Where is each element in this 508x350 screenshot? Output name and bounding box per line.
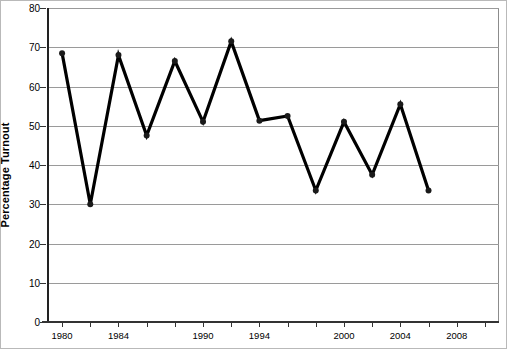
y-axis-line: [47, 8, 49, 323]
data-point-marker: [144, 133, 150, 139]
data-point-marker: [426, 188, 432, 194]
x-tick-label: 2008: [446, 330, 467, 341]
y-tick-mark: [40, 204, 46, 205]
data-point-marker: [59, 50, 65, 56]
plot-area: [48, 8, 499, 322]
y-tick-mark: [40, 126, 46, 127]
y-tick-label: 80: [29, 3, 40, 14]
x-tick-label: 1990: [192, 330, 213, 341]
x-tick-label: 1994: [249, 330, 270, 341]
data-point-marker: [200, 119, 206, 125]
y-tick-mark: [40, 87, 46, 88]
data-point-marker: [313, 188, 319, 194]
series-polyline: [62, 41, 428, 204]
y-tick-mark: [40, 8, 46, 9]
data-point-marker: [87, 201, 93, 207]
x-tick-label: 1980: [52, 330, 73, 341]
y-tick-label: 10: [29, 277, 40, 288]
y-tick-label: 70: [29, 42, 40, 53]
data-point-marker: [285, 113, 291, 119]
data-series-line: [48, 8, 499, 322]
x-tick-label: 2004: [390, 330, 411, 341]
y-tick-label: 40: [29, 160, 40, 171]
y-tick-label: 60: [29, 81, 40, 92]
y-tick-mark: [40, 283, 46, 284]
data-point-marker: [397, 101, 403, 107]
y-tick-mark: [40, 47, 46, 48]
data-point-marker: [369, 172, 375, 178]
x-tick-label: 1984: [108, 330, 129, 341]
data-point-marker: [172, 58, 178, 64]
y-tick-label: 30: [29, 199, 40, 210]
y-tick-mark: [40, 244, 46, 245]
y-tick-mark: [40, 165, 46, 166]
data-point-marker: [341, 119, 347, 125]
data-point-marker: [115, 52, 121, 58]
y-tick-label: 20: [29, 238, 40, 249]
chart-figure: Percentage Turnout 01020304050607080 198…: [0, 0, 508, 350]
data-point-marker: [228, 38, 234, 44]
data-point-marker: [256, 118, 262, 124]
y-tick-label: 50: [29, 120, 40, 131]
x-tick-label: 2000: [333, 330, 354, 341]
y-axis-tick-labels: 01020304050607080: [0, 8, 40, 322]
x-axis-tick-labels: 1980198419901994200020042008: [48, 322, 499, 344]
